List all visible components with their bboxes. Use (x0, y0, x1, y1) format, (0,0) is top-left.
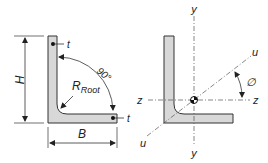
phi-angle-label: ∅ (246, 76, 256, 88)
svg-text:RRoot: RRoot (72, 79, 100, 95)
right-angle-profile (164, 36, 233, 123)
thickness-right-label: t (127, 113, 131, 124)
root-radius-subscript: Root (81, 85, 101, 95)
root-radius-label: R (72, 79, 81, 93)
z-axis-right-label: z (252, 94, 259, 106)
height-label: H (13, 75, 27, 84)
y-axis: y y (190, 3, 198, 159)
width-label: B (78, 127, 86, 141)
thickness-top-label: t (67, 39, 71, 50)
centroid-marker (191, 97, 198, 104)
angle-section-diagram: H B t t 90° RRoot y y (0, 0, 268, 163)
root-radius-annotation: RRoot (61, 79, 100, 108)
u-axis-top-label: u (252, 46, 258, 58)
height-dimension: H (13, 36, 44, 123)
y-axis-bottom-label: y (190, 147, 198, 159)
angle-90-label: 90° (95, 65, 114, 83)
y-axis-top-label: y (190, 3, 198, 15)
width-dimension: B (48, 127, 117, 148)
u-axis-bottom-label: u (140, 137, 146, 149)
u-axis: u u (140, 46, 258, 149)
z-axis-left-label: z (136, 94, 143, 106)
